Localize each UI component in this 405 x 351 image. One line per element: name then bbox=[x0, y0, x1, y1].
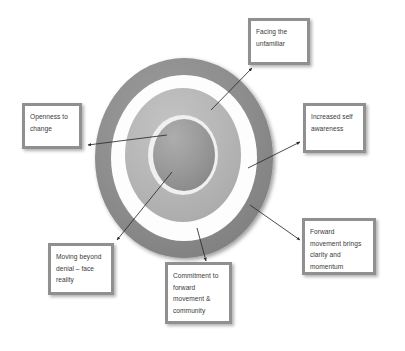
callout-line: forward bbox=[173, 282, 225, 294]
callout-line: Commitment to bbox=[173, 270, 225, 282]
callout-line: reality bbox=[56, 274, 107, 286]
callout-facing-the-unfamiliar[interactable]: Facing the unfamiliar bbox=[248, 18, 310, 65]
callout-line: Forward bbox=[310, 226, 369, 238]
callout-forward-movement-brings-clarity-and-momentum[interactable]: Forward movement brings clarity and mome… bbox=[302, 218, 376, 275]
callout-line: Increased self bbox=[311, 111, 359, 123]
rings-group bbox=[95, 58, 273, 258]
core-circle-shape bbox=[153, 119, 215, 191]
callout-line: Moving beyond bbox=[56, 251, 107, 263]
callout-line: unfamiliar bbox=[256, 38, 303, 50]
callout-line: movement brings bbox=[310, 238, 369, 250]
callout-line: Facing the bbox=[256, 26, 303, 38]
callout-line: clarity and bbox=[310, 249, 369, 261]
callout-commitment-to-forward-movement-and-community[interactable]: Commitment to forward movement & communi… bbox=[165, 262, 232, 324]
callout-moving-beyond-denial-face-reality[interactable]: Moving beyond denial – face reality bbox=[48, 243, 114, 295]
callout-line: movement & bbox=[173, 293, 225, 305]
arrow-to-forward bbox=[250, 205, 300, 240]
callout-openness-to-change[interactable]: Openness to change bbox=[22, 103, 82, 149]
callout-line: change bbox=[30, 123, 75, 135]
callout-line: community bbox=[173, 305, 225, 317]
diagram-canvas: Facing the unfamiliar Openness to change… bbox=[0, 0, 405, 351]
callout-line: denial – face bbox=[56, 263, 107, 275]
callout-line: momentum bbox=[310, 261, 369, 273]
callout-increased-self-awareness[interactable]: Increased self awareness bbox=[303, 103, 366, 153]
callout-line: awareness bbox=[311, 123, 359, 135]
callout-line: Openness to bbox=[30, 111, 75, 123]
